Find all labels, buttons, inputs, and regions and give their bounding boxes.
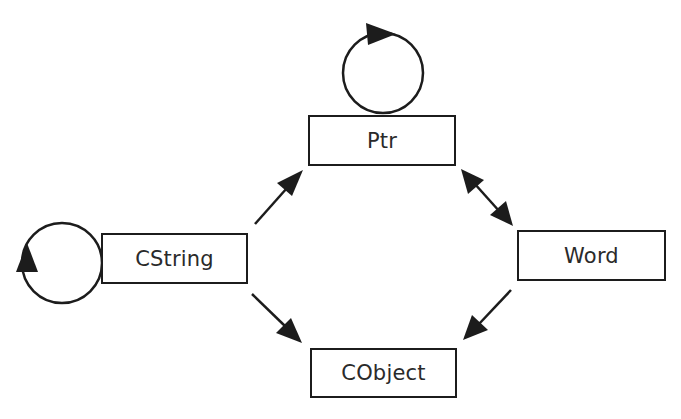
node-cobject: CObject (310, 348, 457, 398)
dependency-diagram: Ptr CString Word CObject (0, 0, 681, 419)
node-label-ptr: Ptr (367, 129, 397, 153)
cstring-self-loop (16, 223, 102, 303)
node-ptr: Ptr (308, 115, 456, 166)
edge-cstring-to-ptr (255, 170, 303, 224)
arrowhead-icon (16, 243, 38, 272)
arrowhead-icon (277, 170, 303, 196)
node-word: Word (517, 230, 666, 281)
arrowhead-icon (366, 23, 396, 45)
ptr-self-loop (343, 23, 423, 113)
edge-word-to-cobject (463, 290, 511, 340)
edge-ptr-word-bidirectional (461, 169, 513, 226)
node-label-word: Word (564, 244, 619, 268)
node-label-cstring: CString (135, 247, 214, 271)
edge-cstring-to-cobject (252, 294, 302, 343)
node-label-cobject: CObject (341, 361, 425, 385)
node-cstring: CString (101, 233, 248, 284)
